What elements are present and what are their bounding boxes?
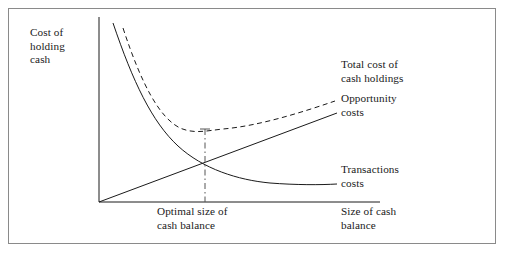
x-axis-label: Size of cash balance xyxy=(341,205,491,232)
optimal-size-label: Optimal size of cash balance xyxy=(157,205,317,232)
transactions-costs-curve xyxy=(113,23,337,185)
series-label-transactions-costs: Transactions costs xyxy=(341,163,491,190)
opportunity-costs-line xyxy=(99,113,337,202)
series-label-opportunity-costs: Opportunity costs xyxy=(341,92,491,119)
y-axis-label: Cost of holding cash xyxy=(30,26,100,67)
figure-container: Cost of holding cash Total cost of cash … xyxy=(0,0,506,256)
total-cost-curve xyxy=(123,28,335,132)
series-label-total-cost: Total cost of cash holdings xyxy=(341,58,491,85)
